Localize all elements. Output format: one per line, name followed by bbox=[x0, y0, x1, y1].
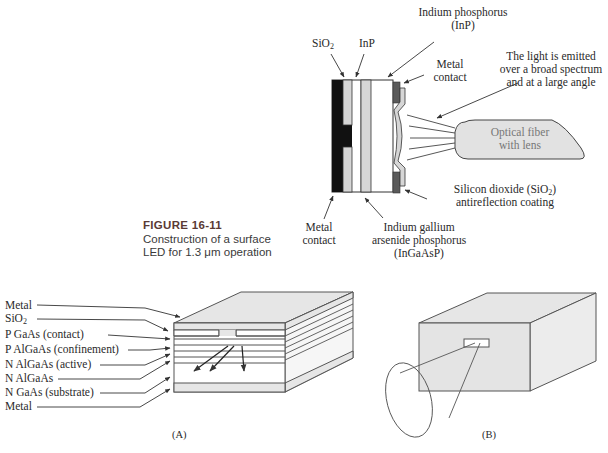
antireflection-coating-label: Silicon dioxide (SiO2) antireflection co… bbox=[430, 183, 580, 209]
panel-a-label: (A) bbox=[172, 428, 187, 441]
inp-label: InP bbox=[359, 37, 375, 50]
layer-label-n-gaas: N GaAs (substrate) bbox=[5, 386, 94, 399]
figure-number: FIGURE 16-11 bbox=[143, 219, 272, 233]
panel-b-label: (B) bbox=[482, 428, 496, 441]
layer-label-metal-top: Metal bbox=[5, 299, 32, 312]
metal-contact-top-label: Metal contact bbox=[425, 58, 475, 84]
ingaasp-label: Indium gallium arsenide phosphorus (InGa… bbox=[364, 221, 474, 260]
layer-label-metal-bottom: Metal bbox=[5, 400, 32, 413]
optical-fiber-label: Optical fiber with lens bbox=[470, 126, 570, 152]
layer-label-p-gaas: P GaAs (contact) bbox=[5, 328, 84, 341]
light-emission-label: The light is emitted over a broad spectr… bbox=[494, 50, 608, 89]
panel-b-block bbox=[378, 293, 596, 442]
panel-a-block bbox=[174, 292, 353, 392]
layer-label-p-algaas: P AlGaAs (confinement) bbox=[5, 343, 119, 356]
figure-caption: FIGURE 16-11 Construction of a surface L… bbox=[143, 219, 272, 260]
sio2-label: SiO2 bbox=[312, 37, 334, 50]
indium-phosphorus-label: Indium phosphorus (InP) bbox=[408, 6, 518, 32]
layer-label-n-algaas-active: N AlGaAs (active) bbox=[5, 358, 91, 371]
layer-label-n-algaas: N AlGaAs bbox=[5, 372, 53, 385]
metal-contact-bottom-label: Metal contact bbox=[296, 221, 342, 247]
layer-label-sio2: SiO2 bbox=[5, 312, 27, 325]
